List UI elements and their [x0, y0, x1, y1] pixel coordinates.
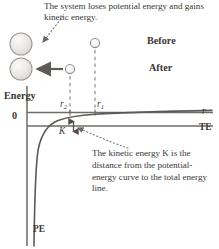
axis-tick-zero: 0: [12, 110, 17, 122]
tick-label-r1: r1: [97, 99, 104, 111]
tick-label-r1-subscript: 1: [101, 103, 104, 110]
sphere-small-before: [90, 38, 99, 47]
axis-label-r: r: [202, 106, 206, 117]
sphere-large-before: [10, 33, 32, 55]
label-before: Before: [147, 35, 176, 47]
diagram-vector-layer: [0, 0, 219, 249]
pointer-arrow-bottom-caption: [78, 128, 128, 148]
label-kinetic-energy: K: [59, 126, 65, 137]
label-after: After: [149, 62, 172, 74]
label-total-energy: TE: [199, 122, 212, 133]
tick-label-r2: r2: [60, 99, 67, 111]
physics-energy-diagram: The system loses potential energy and ga…: [0, 0, 219, 249]
tick-label-r2-subscript: 2: [64, 103, 67, 110]
top-caption: The system loses potential energy and ga…: [44, 1, 216, 24]
sphere-small-after: [65, 64, 74, 73]
bottom-caption: The kinetic energy K is the distance fro…: [92, 148, 214, 195]
sphere-large-after: [10, 58, 32, 80]
label-potential-energy: PE: [33, 224, 45, 235]
axis-label-energy: Energy: [4, 90, 36, 102]
